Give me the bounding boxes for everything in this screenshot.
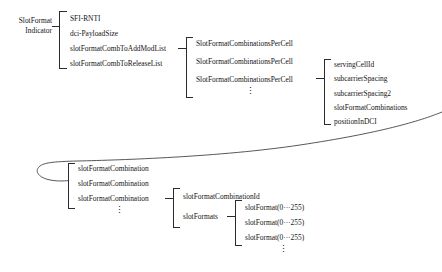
level1-item-3: slotFormatCombToReleaseList: [70, 59, 162, 68]
level6-item-1: slotFormat(0···255): [245, 218, 304, 227]
root-label-line2: Indicator: [25, 26, 52, 35]
level1-item-2: slotFormatCombToAddModList: [70, 44, 166, 53]
level2-bracket: [186, 37, 193, 98]
level2-item-1: SlotFormatCombinationsPerCell: [196, 57, 293, 66]
level5-item-0: slotFormatCombinationId: [183, 192, 260, 201]
root-label: SlotFormat Indicator: [8, 16, 52, 36]
level3-item-4: positionInDCI: [334, 117, 377, 126]
diagram-canvas: SlotFormat Indicator SFI-RNTI dci-Payloa…: [0, 0, 442, 272]
level4-item-0: slotFormatCombination: [78, 164, 149, 173]
level4-ellipsis: ⋮: [115, 206, 124, 215]
level6-ellipsis: ⋮: [279, 245, 288, 254]
root-label-line1: SlotFormat: [19, 16, 52, 25]
level3-item-2: subcarrierSpacing2: [334, 89, 391, 98]
level4-item-2: slotFormatCombination: [78, 194, 149, 203]
level1-item-1: dci-PayloadSize: [70, 29, 118, 38]
level3-bracket: [324, 59, 331, 125]
level5-bracket: [173, 188, 180, 228]
level6-item-0: slotFormat(0···255): [245, 203, 304, 212]
level4-item-1: slotFormatCombination: [78, 179, 149, 188]
level2-item-0: SlotFormatCombinationsPerCell: [196, 39, 293, 48]
level1-item-0: SFI-RNTI: [70, 14, 100, 23]
level4-bracket: [68, 163, 75, 209]
level6-bracket: [235, 200, 242, 246]
level1-bracket: [59, 11, 67, 69]
level6-item-2: slotFormat(0···255): [245, 233, 304, 242]
level2-item-2: SlotFormatCombinationsPerCell: [196, 75, 293, 84]
level3-item-1: subcarrierSpacing: [334, 74, 387, 83]
level3-item-3: slotFormatCombinations: [334, 103, 408, 112]
level5-item-1: slotFormats: [183, 212, 218, 221]
level2-ellipsis: ⋮: [246, 87, 255, 96]
level3-item-0: servingCellId: [334, 60, 374, 69]
